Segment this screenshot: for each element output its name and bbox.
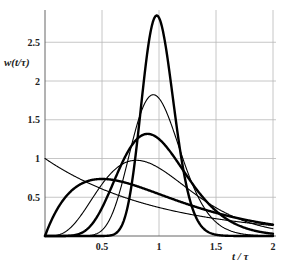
y-axis-label: w(t/τ)	[4, 56, 30, 69]
tick-labels: 0.511.520.511.522.5	[28, 37, 276, 252]
x-tick-label: 1	[157, 241, 162, 252]
x-axis-label: t / τ	[232, 250, 250, 262]
axes	[45, 10, 276, 236]
y-tick-label: 2	[35, 76, 40, 87]
y-tick-label: 1	[35, 153, 40, 164]
y-tick-label: 1.5	[28, 114, 41, 125]
y-tick-label: 0.5	[28, 192, 41, 203]
x-tick-label: 2	[271, 241, 276, 252]
chart-canvas: 0.511.520.511.522.5 w(t/τ) t / τ	[0, 0, 286, 265]
grid-lines	[45, 10, 276, 236]
x-tick-label: 0.5	[96, 241, 109, 252]
x-tick-label: 1.5	[210, 241, 223, 252]
y-tick-label: 2.5	[28, 37, 41, 48]
